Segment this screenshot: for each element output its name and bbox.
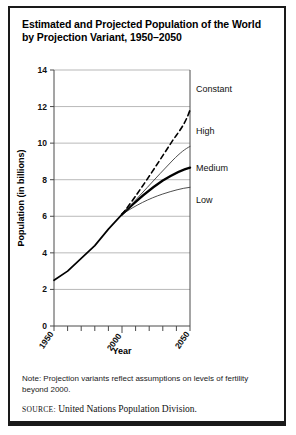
y-tick-label: 12 [38, 102, 48, 112]
y-tick-label: 8 [42, 175, 47, 185]
series-line-estimated [54, 214, 122, 280]
series-label-low: Low [196, 195, 213, 205]
series-line-medium [122, 168, 190, 215]
source-line: Source: United Nations Population Divisi… [22, 404, 272, 414]
series-label-constant: Constant [196, 84, 233, 94]
figure-notes: Note: Projection variants reflect assump… [22, 374, 272, 414]
figure-title: Estimated and Projected Population of th… [22, 18, 266, 44]
y-tick-label: 6 [42, 211, 47, 221]
series-line-high [122, 147, 190, 215]
y-tick-label: 10 [38, 138, 48, 148]
y-axis-title: Population (in billions) [16, 150, 26, 247]
y-tick-label: 2 [42, 284, 47, 294]
source-text: United Nations Population Division. [58, 404, 197, 414]
series-line-constant [122, 110, 190, 214]
x-axis-title: Year [112, 346, 132, 356]
series-labels: Constant High Medium Low [196, 84, 233, 205]
note-text: Note: Projection variants reflect assump… [22, 374, 272, 395]
y-tick-label: 14 [38, 65, 48, 75]
y-tick-marks [50, 70, 54, 326]
x-tick-label: 1950 [37, 329, 56, 350]
gridlines [54, 70, 190, 289]
series-label-high: High [196, 126, 215, 136]
chart-svg: 14 12 10 8 6 4 2 0 [10, 56, 284, 356]
series-label-medium: Medium [196, 163, 228, 173]
x-tick-label: 2050 [173, 329, 192, 350]
chart-plot-area: 14 12 10 8 6 4 2 0 [10, 56, 284, 356]
figure-container: Estimated and Projected Population of th… [8, 6, 286, 426]
bottom-rule [10, 421, 284, 424]
y-tick-label: 4 [42, 248, 47, 258]
y-tick-labels: 14 12 10 8 6 4 2 0 [38, 65, 48, 331]
axes [54, 70, 190, 326]
source-keyword: Source: [22, 405, 56, 414]
x-tick-marks [54, 326, 190, 333]
